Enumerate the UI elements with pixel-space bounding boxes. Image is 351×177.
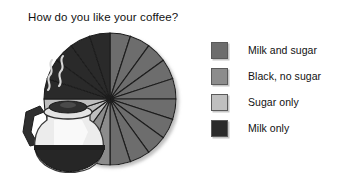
legend-item[interactable]: Milk and sugar xyxy=(211,37,349,63)
legend-swatch-sugar-only xyxy=(211,94,228,111)
legend-swatch-black-no-sugar xyxy=(211,68,228,85)
page-title: How do you like your coffee? xyxy=(28,11,178,23)
coffee-pot-illustration xyxy=(18,28,203,173)
legend-label: Sugar only xyxy=(248,96,299,108)
legend-label: Black, no sugar xyxy=(248,70,321,82)
legend-item[interactable]: Milk only xyxy=(211,115,349,141)
pot-coffee-fill xyxy=(34,145,105,172)
legend-item[interactable]: Black, no sugar xyxy=(211,63,349,89)
legend-item[interactable]: Sugar only xyxy=(211,89,349,115)
pot-lid xyxy=(44,101,92,119)
legend-swatch-milk-and-sugar xyxy=(211,42,228,59)
legend-label: Milk and sugar xyxy=(248,44,317,56)
legend: Milk and sugar Black, no sugar Sugar onl… xyxy=(211,37,349,141)
steam-icon xyxy=(48,56,63,90)
pie-chart-with-illustration xyxy=(18,28,203,173)
slide-canvas: How do you like your coffee? xyxy=(0,0,351,177)
legend-label: Milk only xyxy=(248,122,289,134)
legend-swatch-milk-only xyxy=(211,120,228,137)
